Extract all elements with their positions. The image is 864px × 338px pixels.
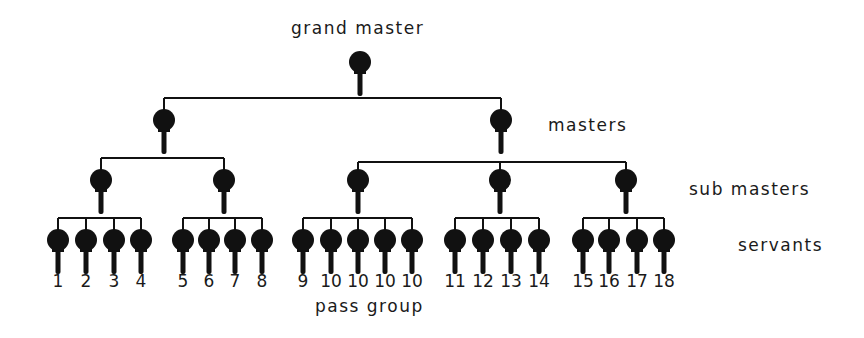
servant-number: 10	[347, 271, 369, 291]
servant-number: 2	[81, 271, 92, 291]
masters-label: masters	[548, 115, 627, 135]
servant-key-icon	[130, 229, 152, 274]
servant-key-icon	[75, 229, 97, 274]
servant-key-icon	[653, 229, 675, 274]
servant-number: 1	[53, 271, 64, 291]
servant-key-icon	[472, 229, 494, 274]
servant-key-icon	[347, 229, 369, 274]
hierarchy-tree	[0, 0, 864, 338]
servant-key-icon	[320, 229, 342, 274]
servant-number: 5	[178, 271, 189, 291]
sub-master-key-icon	[615, 169, 637, 214]
servant-key-icon	[626, 229, 648, 274]
servant-key-icon	[224, 229, 246, 274]
servant-number: 17	[626, 271, 648, 291]
servant-number: 14	[528, 271, 550, 291]
servant-key-icon	[374, 229, 396, 274]
servant-key-icon	[103, 229, 125, 274]
servant-key-icon	[198, 229, 220, 274]
sub-master-key-icon	[489, 169, 511, 214]
servant-number: 15	[572, 271, 594, 291]
servant-key-icon	[47, 229, 69, 274]
grand-master-key-icon	[349, 51, 371, 96]
servants-label: servants	[738, 235, 823, 255]
master-key-hierarchy-diagram: grand master masters sub masters servant…	[0, 0, 864, 338]
servant-number: 10	[401, 271, 423, 291]
servant-key-icon	[444, 229, 466, 274]
servant-key-icon	[251, 229, 273, 274]
master-key-icon	[490, 109, 512, 154]
servant-number: 9	[298, 271, 309, 291]
servant-number: 16	[598, 271, 620, 291]
servant-number: 11	[444, 271, 466, 291]
servant-number: 18	[653, 271, 675, 291]
sub-masters-label: sub masters	[689, 179, 810, 199]
servant-number: 10	[374, 271, 396, 291]
servant-number: 6	[204, 271, 215, 291]
servant-key-icon	[292, 229, 314, 274]
pass-group-label: pass group	[315, 296, 424, 316]
servant-key-icon	[572, 229, 594, 274]
sub-master-key-icon	[213, 169, 235, 214]
servant-number: 10	[320, 271, 342, 291]
servant-key-icon	[172, 229, 194, 274]
master-key-icon	[153, 109, 175, 154]
sub-master-key-icon	[90, 169, 112, 214]
servant-key-icon	[401, 229, 423, 274]
grand-master-label: grand master	[291, 18, 424, 38]
servant-number: 4	[136, 271, 147, 291]
servant-number: 3	[109, 271, 120, 291]
servant-number: 13	[500, 271, 522, 291]
servant-key-icon	[500, 229, 522, 274]
servant-key-icon	[598, 229, 620, 274]
servant-number: 8	[257, 271, 268, 291]
servant-key-icon	[528, 229, 550, 274]
sub-master-key-icon	[347, 169, 369, 214]
servant-number: 12	[472, 271, 494, 291]
servant-number: 7	[230, 271, 241, 291]
